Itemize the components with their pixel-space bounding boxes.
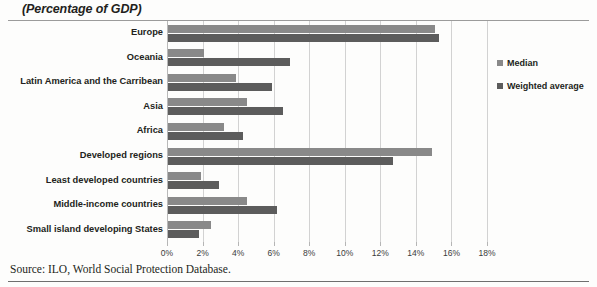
tick-mark [487,242,488,246]
category-label: Europe [131,28,163,37]
x-tick-label: 12% [372,248,389,258]
bar-weighted-average [168,107,283,115]
tick-mark [451,242,452,246]
bar-median [168,74,236,82]
category-label: Least developed countries [46,176,163,185]
category-label: Middle-income countries [53,200,163,209]
bar-weighted-average [168,206,277,214]
legend-label: Weighted average [507,81,584,91]
legend-swatch-icon [497,83,503,89]
bar-weighted-average [168,230,199,238]
bar-median [168,49,204,57]
source-note: Source: ILO, World Social Protection Dat… [10,263,231,275]
x-tick-label: 14% [407,248,424,258]
bar-weighted-average [168,132,243,140]
x-tick-label: 8% [303,248,315,258]
tick-mark [309,242,310,246]
legend-label: Median [507,58,538,68]
bar-median [168,148,432,156]
bar-median [168,98,247,106]
legend-swatch-icon [497,60,503,66]
chart-row: Least developed countries [167,168,487,193]
gridline [487,21,488,242]
tick-mark [167,242,168,246]
bar-weighted-average [168,58,290,66]
legend-item[interactable]: Weighted average [497,81,584,91]
tick-mark [345,242,346,246]
chart-row: Small island developing States [167,217,487,242]
bar-weighted-average [168,34,439,42]
bar-weighted-average [168,181,219,189]
chart-row: Latin America and the Carribean [167,70,487,95]
x-tick-label: 4% [232,248,244,258]
chart-legend: MedianWeighted average [497,58,584,104]
x-tick-label: 18% [478,248,495,258]
category-label: Africa [137,126,163,135]
tick-mark [416,242,417,246]
bar-median [168,221,211,229]
tick-mark [274,242,275,246]
x-tick-label: 10% [336,248,353,258]
chart-row: Europe [167,21,487,46]
category-label: Asia [143,102,163,111]
tick-mark [380,242,381,246]
category-label: Small island developing States [27,225,163,234]
chart-row: Middle-income countries [167,193,487,218]
x-tick-label: 0% [161,248,173,258]
legend-item[interactable]: Median [497,58,584,68]
chart-row: Asia [167,95,487,120]
bar-weighted-average [168,83,272,91]
bar-weighted-average [168,157,393,165]
plot-area: 0%2%4%6%8%10%12%14%16%18% EuropeOceaniaL… [167,21,487,242]
category-label: Oceania [127,53,163,62]
footer-divider [8,281,589,282]
bar-median [168,172,201,180]
tick-mark [203,242,204,246]
bar-median [168,197,247,205]
bar-median [168,25,435,33]
category-label: Latin America and the Carribean [20,77,163,86]
category-label: Developed regions [80,151,163,160]
chart-row: Africa [167,119,487,144]
chart-title: (Percentage of GDP) [22,2,142,16]
x-tick-label: 6% [268,248,280,258]
bar-median [168,123,224,131]
chart-row: Oceania [167,46,487,71]
x-tick-label: 2% [196,248,208,258]
tick-mark [238,242,239,246]
x-tick-label: 16% [443,248,460,258]
chart-row: Developed regions [167,144,487,169]
chart-figure: (Percentage of GDP) 0%2%4%6%8%10%12%14%1… [0,0,597,287]
